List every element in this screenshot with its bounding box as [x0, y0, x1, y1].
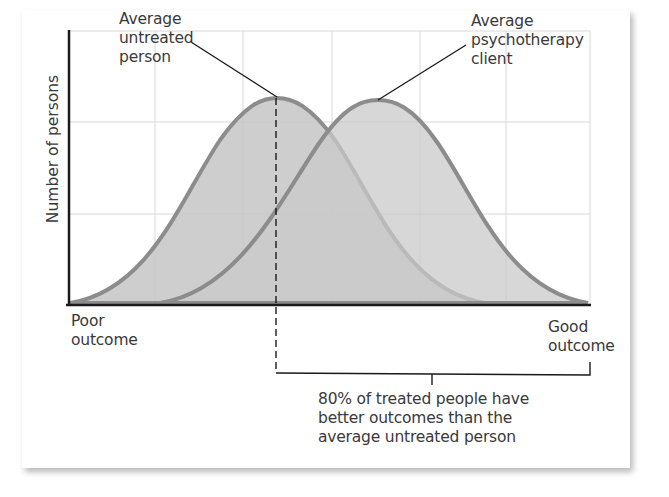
untreated-line-3: person — [119, 48, 193, 67]
poor-line-2: outcome — [71, 331, 138, 350]
untreated-line-1: Average — [119, 10, 193, 29]
good-line-2: outcome — [548, 337, 615, 356]
treated-line-3: client — [471, 50, 584, 69]
note-line-3: average untreated person — [318, 428, 529, 447]
treated-line-1: Average — [471, 12, 584, 31]
treated-annotation: Average psychotherapy client — [471, 12, 584, 69]
good-line-1: Good — [548, 318, 615, 337]
treated-line-2: psychotherapy — [471, 31, 584, 50]
poor-outcome-label: Poor outcome — [71, 312, 138, 350]
untreated-annotation: Average untreated person — [119, 10, 193, 67]
treated-leader — [378, 45, 466, 100]
poor-line-1: Poor — [71, 312, 138, 331]
percent-bracket — [276, 362, 590, 375]
good-outcome-label: Good outcome — [548, 318, 615, 356]
y-axis-label: Number of persons — [44, 64, 62, 234]
note-line-1: 80% of treated people have — [318, 390, 529, 409]
effect-note: 80% of treated people have better outcom… — [318, 390, 529, 447]
note-line-2: better outcomes than the — [318, 409, 529, 428]
untreated-line-2: untreated — [119, 29, 193, 48]
untreated-leader — [191, 42, 277, 97]
